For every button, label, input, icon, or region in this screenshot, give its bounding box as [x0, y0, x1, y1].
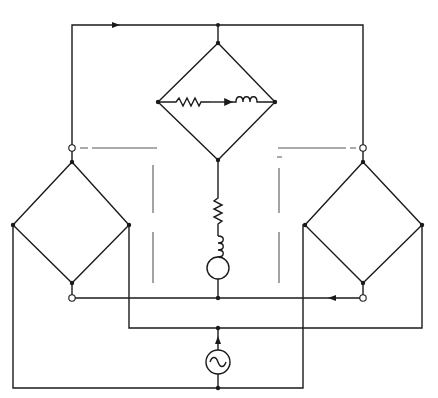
va-circle-layer — [0, 0, 438, 398]
va-source-circle — [207, 257, 229, 279]
